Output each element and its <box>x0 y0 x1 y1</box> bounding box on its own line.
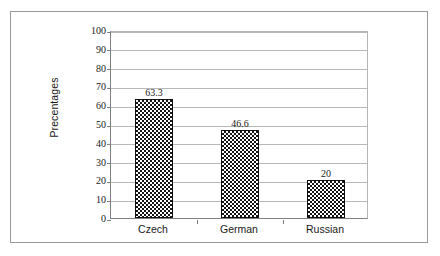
bar-russian[interactable] <box>307 180 345 218</box>
plot-area: 63.346.620 <box>110 31 368 219</box>
y-axis-tick-mark <box>107 69 111 70</box>
gridline <box>111 69 367 70</box>
gridline <box>111 32 367 33</box>
y-axis-tick-mark <box>107 88 111 89</box>
y-axis-tick-label: 10 <box>66 195 106 205</box>
chart-figure: Precentages 1009080706050403020100 63.34… <box>0 0 440 256</box>
y-axis-tick-labels: 1009080706050403020100 <box>62 31 106 219</box>
y-axis-tick-mark <box>107 126 111 127</box>
y-axis-tick-mark <box>107 50 111 51</box>
y-axis-tick-label: 50 <box>66 120 106 130</box>
x-axis-category-label-russian: Russian <box>280 224 370 235</box>
bar-czech[interactable] <box>135 99 173 218</box>
x-axis-category-label-german: German <box>194 224 284 235</box>
y-axis-tick-mark <box>107 144 111 145</box>
y-axis-tick-mark <box>107 107 111 108</box>
y-axis-tick-mark <box>107 32 111 33</box>
gridline <box>111 50 367 51</box>
y-axis-tick-label: 60 <box>66 101 106 111</box>
y-axis-tick-label: 90 <box>66 45 106 55</box>
bar-value-label-russian: 20 <box>296 169 356 179</box>
bar-value-label-german: 46.6 <box>210 119 270 129</box>
y-axis-tick-label: 70 <box>66 82 106 92</box>
y-axis-tick-label: 30 <box>66 158 106 168</box>
y-axis-tick-mark <box>107 182 111 183</box>
chart-outer-frame: Precentages 1009080706050403020100 63.34… <box>10 11 428 243</box>
y-axis-tick-mark <box>107 201 111 202</box>
y-axis-tick-label: 100 <box>66 26 106 36</box>
x-axis-category-label-czech: Czech <box>108 224 198 235</box>
y-axis-tick-mark <box>107 163 111 164</box>
bar-value-label-czech: 63.3 <box>124 88 184 98</box>
y-axis-tick-mark <box>107 220 111 221</box>
y-axis-tick-label: 0 <box>66 214 106 224</box>
y-axis-tick-label: 40 <box>66 139 106 149</box>
y-axis-title: Precentages <box>49 53 60 163</box>
bar-german[interactable] <box>221 130 259 218</box>
y-axis-tick-label: 80 <box>66 64 106 74</box>
y-axis-tick-label: 20 <box>66 176 106 186</box>
